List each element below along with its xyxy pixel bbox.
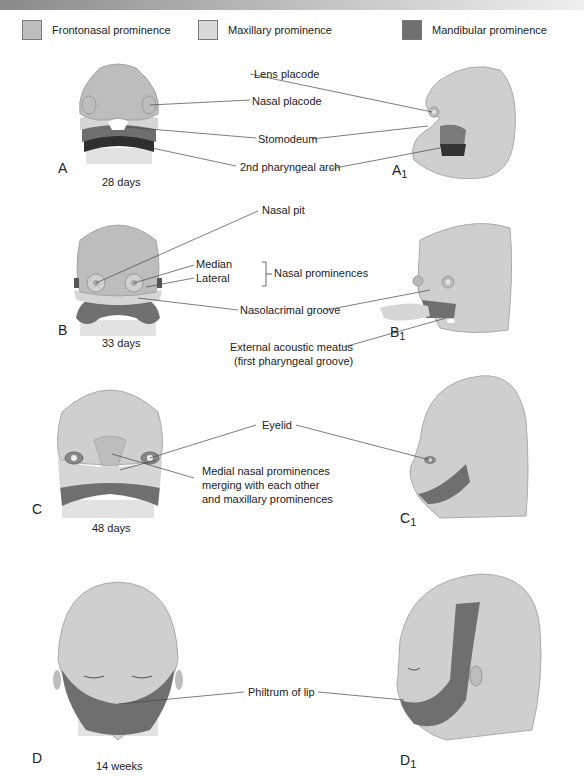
embryo-b-side <box>380 224 512 333</box>
panel-b: B <box>58 322 67 338</box>
label-lateral: Lateral <box>196 272 230 285</box>
panel-b1: B1 <box>390 324 405 342</box>
panel-a: A <box>58 160 67 176</box>
label-nasal-pit: Nasal pit <box>262 204 305 217</box>
age-33-days: 33 days <box>102 337 141 349</box>
panel-a1: A1 <box>392 162 407 180</box>
panel-d1: D1 <box>400 752 416 770</box>
label-median: Median <box>196 258 232 271</box>
label-nasal-prominences: Nasal prominences <box>274 267 368 280</box>
label-external-acoustic-meatus: External acoustic meatus <box>230 341 353 354</box>
fetus-d-frontal <box>53 582 183 740</box>
age-48-days: 48 days <box>92 522 131 534</box>
label-lens-placode: Lens placode <box>254 68 319 81</box>
label-medial-nasal-1: Medial nasal prominences <box>202 465 330 478</box>
panel-c: C <box>32 501 42 517</box>
panel-d: D <box>32 750 42 766</box>
embryo-illustration <box>0 0 584 776</box>
age-14-weeks: 14 weeks <box>96 760 142 772</box>
panel-c1: C1 <box>400 510 416 528</box>
embryo-c-side <box>410 376 528 518</box>
embryo-a-side <box>413 67 516 179</box>
label-eyelid: Eyelid <box>262 419 292 432</box>
label-2nd-pharyngeal-arch: 2nd pharyngeal arch <box>240 161 340 174</box>
label-stomodeum: Stomodeum <box>258 133 317 146</box>
embryo-a-frontal <box>79 64 158 164</box>
label-medial-nasal-3: and maxillary prominences <box>202 493 333 506</box>
label-medial-nasal-2: merging with each other <box>202 479 319 492</box>
age-28-days: 28 days <box>102 176 141 188</box>
fetus-d-side <box>397 574 541 740</box>
label-nasal-placode: Nasal placode <box>252 95 322 108</box>
label-nasolacrimal-groove: Nasolacrimal groove <box>240 304 340 317</box>
label-first-pharyngeal-groove: (first pharyngeal groove) <box>234 355 353 368</box>
embryo-b-frontal <box>74 225 162 336</box>
label-philtrum: Philtrum of lip <box>248 686 315 699</box>
embryo-c-frontal <box>57 390 162 518</box>
